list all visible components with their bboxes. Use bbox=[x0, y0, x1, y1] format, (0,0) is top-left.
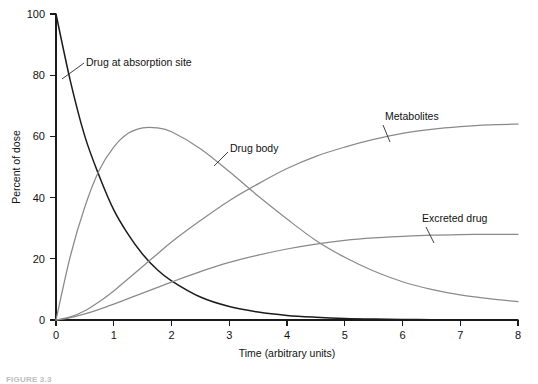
y-tick-label-60: 60 bbox=[33, 130, 45, 142]
curve-excreted-drug bbox=[56, 234, 518, 320]
x-tick-label-1: 1 bbox=[111, 329, 117, 341]
x-tick-labels: 0 1 2 3 4 5 6 7 8 bbox=[53, 329, 521, 341]
y-tick-labels: 0 20 40 60 80 100 bbox=[27, 8, 45, 326]
x-tick-label-6: 6 bbox=[399, 329, 405, 341]
x-tick-label-5: 5 bbox=[342, 329, 348, 341]
y-tick-label-0: 0 bbox=[39, 314, 45, 326]
figure-caption-label: FIGURE 3.3 bbox=[6, 375, 52, 384]
x-tick-label-2: 2 bbox=[168, 329, 174, 341]
x-tick-label-0: 0 bbox=[53, 329, 59, 341]
leader-drug-at-absorption-site bbox=[62, 63, 84, 79]
x-ticks bbox=[56, 320, 518, 326]
x-tick-label-3: 3 bbox=[226, 329, 232, 341]
y-axis-title: Percent of dose bbox=[10, 130, 22, 204]
label-excreted-drug: Excreted drug bbox=[422, 212, 488, 224]
x-axis-title: Time (arbitrary units) bbox=[239, 347, 335, 359]
label-drug-body: Drug body bbox=[230, 142, 279, 154]
y-tick-label-40: 40 bbox=[33, 192, 45, 204]
annotations-group: Drug at absorption site Drug body Metabo… bbox=[62, 56, 488, 243]
leader-metabolites bbox=[383, 125, 390, 142]
figure-caption: FIGURE 3.3 bbox=[6, 375, 52, 384]
x-tick-label-7: 7 bbox=[457, 329, 463, 341]
pharmacokinetics-figure: 0 20 40 60 80 100 0 1 2 bbox=[0, 0, 538, 384]
chart-canvas: 0 20 40 60 80 100 0 1 2 bbox=[0, 0, 538, 384]
y-tick-label-80: 80 bbox=[33, 69, 45, 81]
label-metabolites: Metabolites bbox=[385, 110, 439, 122]
x-tick-label-4: 4 bbox=[284, 329, 290, 341]
label-drug-at-absorption-site: Drug at absorption site bbox=[86, 56, 192, 68]
y-tick-label-20: 20 bbox=[33, 253, 45, 265]
x-tick-label-8: 8 bbox=[515, 329, 521, 341]
y-ticks bbox=[50, 14, 56, 320]
y-tick-label-100: 100 bbox=[27, 8, 45, 20]
leader-drug-body bbox=[214, 152, 228, 166]
